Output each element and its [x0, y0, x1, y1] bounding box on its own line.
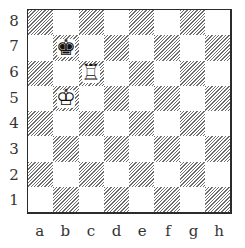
rank-label-5: 5	[8, 91, 20, 106]
square-b5: ♔	[53, 86, 78, 111]
square-a5	[28, 86, 53, 111]
square-a2	[28, 162, 53, 187]
square-e1	[129, 187, 154, 212]
white-king-icon: ♔	[56, 87, 76, 109]
square-c2	[79, 162, 104, 187]
square-b8	[53, 10, 78, 35]
file-label-a: a	[27, 224, 53, 239]
square-e7	[129, 35, 154, 60]
square-h5	[205, 86, 230, 111]
square-h4	[205, 111, 230, 136]
square-g4	[180, 111, 205, 136]
file-label-d: d	[104, 224, 130, 239]
square-e4	[129, 111, 154, 136]
square-c3	[79, 136, 104, 161]
square-f4	[154, 111, 179, 136]
piece-glyph: ♚	[56, 35, 76, 60]
square-h8	[205, 10, 230, 35]
square-f5	[154, 86, 179, 111]
square-b6	[53, 61, 78, 86]
rank-label-7: 7	[8, 39, 20, 54]
square-a6	[28, 61, 53, 86]
rank-label-6: 6	[8, 65, 20, 80]
rank-label-4: 4	[8, 116, 20, 131]
square-c7	[79, 35, 104, 60]
square-a4	[28, 111, 53, 136]
square-a1	[28, 187, 53, 212]
square-e6	[129, 61, 154, 86]
square-f1	[154, 187, 179, 212]
square-c5	[79, 86, 104, 111]
rank-label-1: 1	[8, 193, 20, 208]
square-d6	[104, 61, 129, 86]
square-d1	[104, 187, 129, 212]
square-g6	[180, 61, 205, 86]
rank-label-3: 3	[8, 142, 20, 157]
square-f8	[154, 10, 179, 35]
square-g3	[180, 136, 205, 161]
square-c4	[79, 111, 104, 136]
square-h6	[205, 61, 230, 86]
square-g2	[180, 162, 205, 187]
square-a7	[28, 35, 53, 60]
file-label-c: c	[78, 224, 104, 239]
square-c8	[79, 10, 104, 35]
black-king-icon: ♚	[56, 37, 76, 59]
rank-label-8: 8	[8, 14, 20, 29]
square-g7	[180, 35, 205, 60]
file-label-g: g	[181, 224, 207, 239]
square-b7: ♚	[53, 35, 78, 60]
square-g1	[180, 187, 205, 212]
square-f3	[154, 136, 179, 161]
square-h7	[205, 35, 230, 60]
square-c1	[79, 187, 104, 212]
square-d3	[104, 136, 129, 161]
square-d2	[104, 162, 129, 187]
square-b2	[53, 162, 78, 187]
square-a3	[28, 136, 53, 161]
square-f7	[154, 35, 179, 60]
square-e5	[129, 86, 154, 111]
chess-board: ♚♖♔	[27, 9, 232, 214]
file-label-h: h	[206, 224, 232, 239]
chess-diagram: 87654321 ♚♖♔ abcdefgh	[0, 0, 245, 248]
square-a8	[28, 10, 53, 35]
square-g8	[180, 10, 205, 35]
square-f2	[154, 162, 179, 187]
square-h1	[205, 187, 230, 212]
square-h3	[205, 136, 230, 161]
square-d8	[104, 10, 129, 35]
square-b4	[53, 111, 78, 136]
square-e2	[129, 162, 154, 187]
square-f6	[154, 61, 179, 86]
file-label-b: b	[53, 224, 79, 239]
rank-label-2: 2	[8, 168, 20, 183]
square-e3	[129, 136, 154, 161]
file-label-e: e	[130, 224, 156, 239]
square-b1	[53, 187, 78, 212]
file-label-f: f	[155, 224, 181, 239]
square-d7	[104, 35, 129, 60]
piece-glyph: ♔	[56, 85, 76, 110]
square-d5	[104, 86, 129, 111]
square-b3	[53, 136, 78, 161]
square-h2	[205, 162, 230, 187]
square-d4	[104, 111, 129, 136]
square-c6: ♖	[79, 61, 104, 86]
square-e8	[129, 10, 154, 35]
square-g5	[180, 86, 205, 111]
white-rook-icon: ♖	[81, 62, 101, 84]
piece-glyph: ♖	[81, 60, 101, 85]
